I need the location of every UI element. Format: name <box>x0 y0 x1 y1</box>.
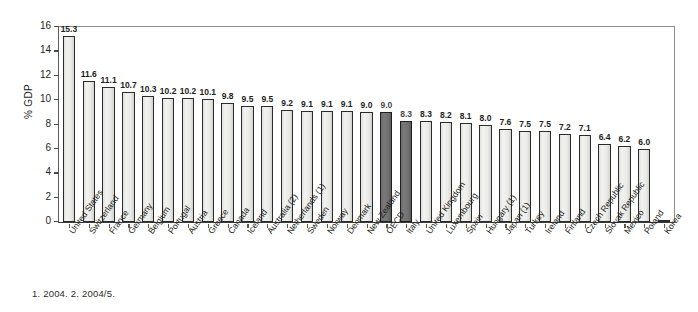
bar-value-label: 9.5 <box>242 95 254 104</box>
bar-series: 15.311.611.110.710.310.210.210.19.89.59.… <box>59 27 674 222</box>
chart-footnote: 1. 2004. 2. 2004/5. <box>32 288 115 299</box>
bar-value-label: 7.6 <box>499 118 511 127</box>
bar-slot: 8.3 <box>420 99 432 222</box>
y-axis-tick-label: 12 <box>27 69 51 81</box>
y-axis-tick-label: 4 <box>27 166 51 178</box>
bar-value-label: 6.4 <box>599 133 611 142</box>
bar-slot: 7.2 <box>559 112 571 222</box>
y-axis-tick-label: 14 <box>27 44 51 56</box>
bar-value-label: 8.3 <box>420 110 432 119</box>
bar-value-label: 8.2 <box>440 111 452 120</box>
bar-value-label: 9.0 <box>380 101 392 110</box>
bar-value-label: 9.1 <box>321 100 333 109</box>
bar-value-label: 9.1 <box>301 100 313 109</box>
bar[interactable] <box>261 106 273 222</box>
bar-value-label: 10.3 <box>140 85 157 94</box>
y-axis-tick-label: 16 <box>27 20 51 32</box>
bar-slot: 7.1 <box>579 113 591 222</box>
bar-value-label: 7.5 <box>539 120 551 129</box>
bar-slot: 6.0 <box>638 127 650 222</box>
bar-value-label: 9.8 <box>222 92 234 101</box>
bar-value-label: 8.3 <box>400 110 412 119</box>
bar-value-label: 11.1 <box>101 76 117 85</box>
bar-value-label: 11.6 <box>81 70 97 79</box>
bar-slot: 9.1 <box>321 89 333 222</box>
bar-slot: 8.3 <box>400 99 412 222</box>
bar-slot: 10.1 <box>202 77 214 222</box>
y-axis-tick-label: 6 <box>27 142 51 154</box>
y-axis-tick-label: 8 <box>27 118 51 130</box>
bar-value-label: 8.0 <box>480 114 492 123</box>
bar-slot: 9.1 <box>341 89 353 222</box>
bar-value-label: 8.1 <box>460 112 472 121</box>
bar-value-label: 15.3 <box>61 25 78 34</box>
bar-slot: 10.2 <box>162 76 174 222</box>
bar-slot: 8.0 <box>479 103 491 223</box>
bar-value-label: 6.2 <box>618 135 630 144</box>
bar-value-label: 10.7 <box>120 81 137 90</box>
bar[interactable] <box>63 36 75 222</box>
bar[interactable] <box>221 103 233 222</box>
bar-value-label: 9.1 <box>341 100 353 109</box>
bar-slot: 10.3 <box>142 74 154 222</box>
bar-slot: 9.5 <box>261 84 273 222</box>
bar[interactable] <box>479 125 491 223</box>
bar-value-label: 7.2 <box>559 123 571 132</box>
bar-slot: 10.7 <box>122 70 134 222</box>
bar[interactable] <box>122 92 134 222</box>
bar-value-label: 9.5 <box>261 95 273 104</box>
bar-value-label: 7.5 <box>519 120 531 129</box>
bar[interactable] <box>420 121 432 222</box>
y-axis-tick-label: 2 <box>27 191 51 203</box>
bar-value-label: 9.0 <box>361 101 373 110</box>
bar-slot: 9.5 <box>241 84 253 222</box>
bar[interactable] <box>202 99 214 222</box>
bar-value-label: 9.2 <box>281 99 293 108</box>
bar-value-label: 10.1 <box>199 88 216 97</box>
bar-value-label: 6.0 <box>638 138 650 147</box>
chart-figure: % GDP 0246810121416 15.311.611.110.710.3… <box>0 0 698 312</box>
bar-slot: 7.5 <box>539 109 551 222</box>
bar-value-label: 10.2 <box>180 87 197 96</box>
plot-area: 0246810121416 15.311.611.110.710.310.210… <box>58 26 675 223</box>
bar[interactable] <box>162 98 174 222</box>
bar[interactable] <box>559 134 571 222</box>
bar-slot: 10.2 <box>182 76 194 222</box>
bar[interactable] <box>400 121 412 222</box>
bar-slot: 15.3 <box>63 14 75 222</box>
bar-value-label: 10.2 <box>160 87 177 96</box>
bar[interactable] <box>539 131 551 222</box>
bar-value-label: 7.1 <box>579 124 591 133</box>
y-axis-tick-label: 0 <box>27 215 51 227</box>
y-axis-tick-label: 10 <box>27 93 51 105</box>
bar-slot: 9.8 <box>221 81 233 222</box>
bar[interactable] <box>341 111 353 222</box>
